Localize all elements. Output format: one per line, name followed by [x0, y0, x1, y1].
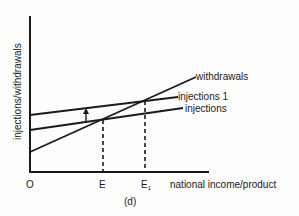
equilibrium-e1-label: E1: [141, 179, 152, 191]
y-axis-label: injections/withdrawals: [12, 43, 23, 140]
injections-line: [30, 108, 183, 130]
injections-label: injections: [185, 103, 227, 114]
origin-label: O: [26, 179, 34, 190]
equilibrium-e-label: E: [99, 179, 106, 190]
figure-caption: (d): [124, 196, 136, 207]
injections-1-label: injections 1: [178, 91, 228, 102]
x-axis-label: national income/product: [170, 179, 276, 190]
injections-withdrawals-diagram: injections/withdrawals withdrawals injec…: [0, 0, 299, 216]
withdrawals-line: [30, 77, 196, 152]
withdrawals-label: withdrawals: [195, 71, 248, 82]
